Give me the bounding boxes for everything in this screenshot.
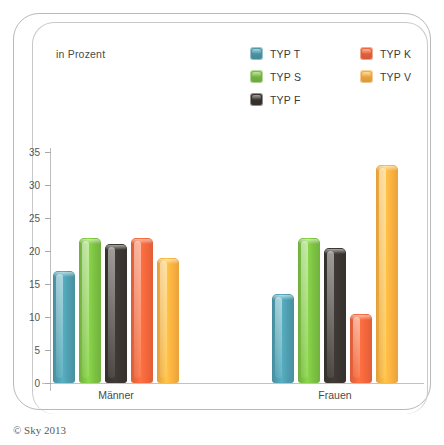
legend-swatch-icon-typ-s	[250, 70, 263, 83]
legend-item-typ-v[interactable]: TYP V	[360, 66, 411, 87]
legend-label-typ-t: TYP T	[270, 48, 300, 60]
legend-item-typ-f[interactable]: TYP F	[250, 89, 301, 110]
copyright-notice: © Sky 2013	[13, 424, 66, 436]
legend-swatch-icon-typ-t	[250, 47, 263, 60]
legend-label-typ-v: TYP V	[380, 71, 411, 83]
legend-swatch-icon-typ-f	[250, 93, 263, 106]
legend-label-typ-k: TYP K	[380, 48, 411, 60]
legend-item-typ-k[interactable]: TYP K	[360, 43, 411, 64]
axis-unit-label: in Prozent	[56, 48, 105, 60]
legend-swatch-icon-typ-k	[360, 47, 373, 60]
legend-column-1: TYP T TYP S TYP F	[250, 43, 301, 112]
legend-item-typ-s[interactable]: TYP S	[250, 66, 301, 87]
legend-label-typ-f: TYP F	[270, 94, 301, 106]
legend-swatch-icon-typ-v	[360, 70, 373, 83]
legend-item-typ-t[interactable]: TYP T	[250, 43, 301, 64]
legend-column-2: TYP K TYP V	[360, 43, 411, 89]
legend-label-typ-s: TYP S	[270, 71, 301, 83]
